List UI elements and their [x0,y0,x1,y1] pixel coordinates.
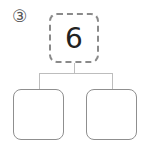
total-box: 6 [49,13,99,63]
left-part-box[interactable] [13,89,64,140]
problem-number: ③ [12,8,27,25]
total-value: 6 [65,22,83,55]
connector-vertical [74,63,75,73]
connector-left [39,73,40,89]
connector-horizontal [39,73,113,74]
right-part-box[interactable] [86,89,137,140]
connector-right [112,73,113,89]
